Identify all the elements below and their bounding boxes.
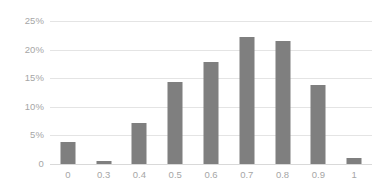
y-axis-tick-label: 5% — [8, 130, 44, 140]
bar[interactable] — [168, 82, 183, 164]
bar[interactable] — [96, 161, 111, 164]
x-axis-tick-label: 0.9 — [312, 170, 325, 180]
x-axis-tick-label: 1 — [351, 170, 356, 180]
x-axis-tick-label: 0.6 — [204, 170, 217, 180]
bar[interactable] — [275, 41, 290, 164]
bar[interactable] — [347, 158, 362, 164]
x-axis-tick-label: 0.7 — [240, 170, 253, 180]
x-axis-tick-label: 0.8 — [276, 170, 289, 180]
bars-layer — [50, 21, 372, 164]
bar-slot — [157, 21, 193, 164]
bar-slot — [229, 21, 265, 164]
y-axis-tick-label: 25% — [8, 16, 44, 26]
bar[interactable] — [239, 37, 254, 164]
x-axis-tick-label: 0.5 — [169, 170, 182, 180]
y-axis-tick-label: 0 — [8, 159, 44, 169]
bar-slot — [122, 21, 158, 164]
x-axis-tick-label: 0 — [65, 170, 70, 180]
y-axis-tick-label: 15% — [8, 73, 44, 83]
bar-slot — [336, 21, 372, 164]
bar-slot — [265, 21, 301, 164]
bar-chart: 25%20%15%10%5%0 00.30.40.50.60.70.80.91 — [0, 0, 383, 194]
y-axis-tick-label: 10% — [8, 102, 44, 112]
bar[interactable] — [132, 123, 147, 164]
gridline-0 — [50, 164, 372, 165]
x-axis-tick-label: 0.3 — [97, 170, 110, 180]
bar[interactable] — [60, 142, 75, 164]
bar[interactable] — [203, 62, 218, 164]
y-axis-tick-label: 20% — [8, 45, 44, 55]
bar[interactable] — [311, 85, 326, 164]
bar-slot — [86, 21, 122, 164]
bar-slot — [193, 21, 229, 164]
bar-slot — [50, 21, 86, 164]
bar-slot — [300, 21, 336, 164]
x-axis-tick-label: 0.4 — [133, 170, 146, 180]
